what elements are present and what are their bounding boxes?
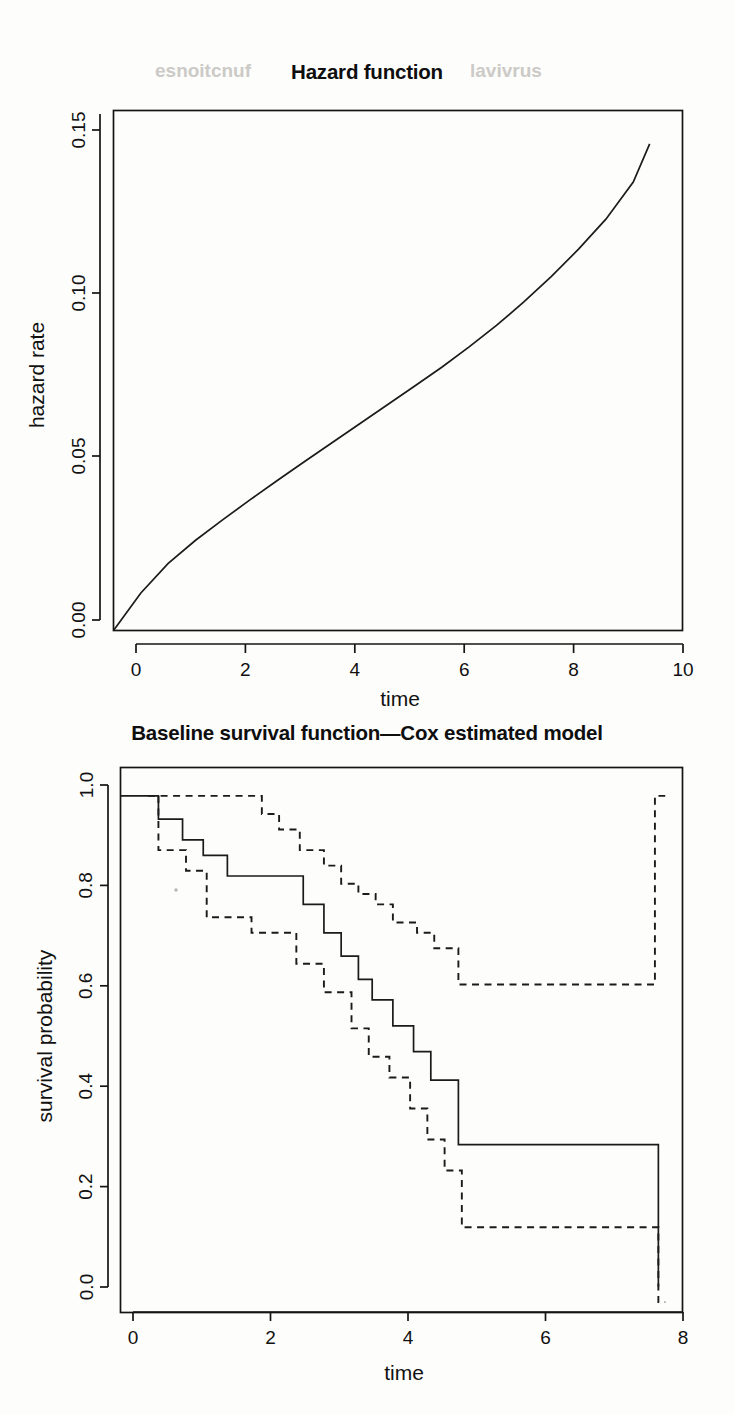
upper-confidence-limit-curve bbox=[148, 796, 665, 985]
hazard-plot-frame bbox=[114, 111, 683, 631]
hazard-x-ticklabel-2: 2 bbox=[240, 659, 251, 680]
hazard-x-ticklabel-4: 4 bbox=[350, 659, 361, 680]
hazard-chart-svg: 0.15 0.10 0.05 0.00 hazard rate 0 2 4 6 bbox=[0, 0, 734, 712]
survival-y-ticklabel-06: 0.6 bbox=[76, 973, 97, 999]
survival-y-ticklabel-10: 1.0 bbox=[76, 772, 97, 798]
survival-y-axis: 1.0 0.8 0.6 0.4 0.2 0.0 survival probabi… bbox=[33, 772, 109, 1300]
hazard-y-ticklabel-000: 0.00 bbox=[68, 602, 89, 639]
hazard-y-axis-title: hazard rate bbox=[25, 322, 48, 428]
survival-x-ticklabel-0: 0 bbox=[128, 1327, 139, 1348]
survival-y-axis-title: survival probability bbox=[33, 949, 56, 1122]
baseline-survival-step-curve bbox=[121, 796, 659, 1287]
survival-x-ticklabel-2: 2 bbox=[265, 1327, 276, 1348]
hazard-x-axis-title: time bbox=[380, 687, 420, 710]
hazard-y-ticklabel-005: 0.05 bbox=[68, 438, 89, 475]
survival-x-ticklabel-6: 6 bbox=[540, 1327, 551, 1348]
survival-y-ticklabel-08: 0.8 bbox=[76, 872, 97, 898]
baseline-survival-figure: Baseline survival function—Cox estimated… bbox=[0, 712, 734, 1415]
hazard-function-figure: esnoitcnuf lavivrus Hazard function 0.15… bbox=[0, 0, 734, 712]
lower-confidence-limit-curve bbox=[158, 796, 665, 1302]
survival-chart-svg: 1.0 0.8 0.6 0.4 0.2 0.0 survival probabi… bbox=[0, 712, 734, 1415]
survival-x-axis-title: time bbox=[384, 1361, 424, 1384]
hazard-y-ticklabel-015: 0.15 bbox=[68, 112, 89, 149]
scanned-figure-page: esnoitcnuf lavivrus Hazard function 0.15… bbox=[0, 0, 734, 1415]
survival-y-ticklabel-00: 0.0 bbox=[76, 1274, 97, 1300]
survival-y-ticklabel-04: 0.4 bbox=[76, 1073, 97, 1100]
hazard-x-ticklabel-10: 10 bbox=[672, 659, 693, 680]
hazard-rate-curve bbox=[114, 144, 650, 631]
survival-plot-frame bbox=[121, 768, 683, 1313]
hazard-y-ticklabel-010: 0.10 bbox=[68, 275, 89, 312]
hazard-x-ticklabel-0: 0 bbox=[131, 659, 142, 680]
hazard-x-ticklabel-8: 8 bbox=[568, 659, 579, 680]
survival-x-ticklabel-4: 4 bbox=[403, 1327, 414, 1348]
hazard-x-axis: 0 2 4 6 8 10 time bbox=[131, 644, 694, 710]
hazard-x-ticklabel-6: 6 bbox=[459, 659, 470, 680]
hazard-y-axis: 0.15 0.10 0.05 0.00 hazard rate bbox=[25, 112, 101, 639]
survival-x-ticklabel-8: 8 bbox=[678, 1327, 689, 1348]
survival-y-ticklabel-02: 0.2 bbox=[76, 1173, 97, 1199]
survival-x-axis: 0 2 4 6 8 time bbox=[128, 1312, 689, 1384]
scan-speck-artifact bbox=[174, 888, 177, 891]
